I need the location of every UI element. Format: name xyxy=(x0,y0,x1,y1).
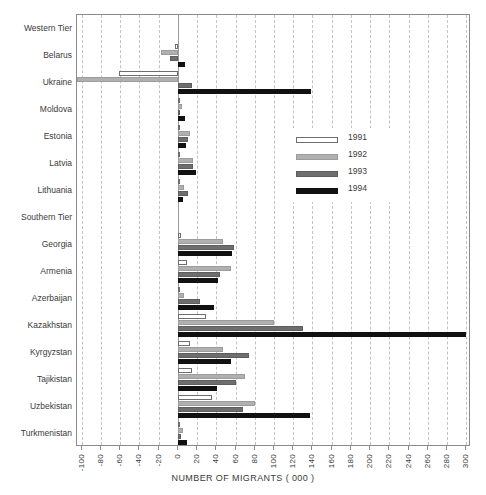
x-tick-label-240: 240 xyxy=(404,454,413,468)
category-label-kazakhstan: Kazakhstan xyxy=(28,320,72,330)
gridline-280 xyxy=(447,15,448,445)
bar-uzbekistan-1993 xyxy=(178,407,243,412)
gridline-300 xyxy=(466,15,467,445)
x-tick-label-140: 140 xyxy=(307,454,316,468)
category-label-azerbaijan: Azerbaijan xyxy=(32,293,72,303)
gridline-240 xyxy=(409,15,410,445)
x-tick-20 xyxy=(196,446,197,450)
bar-armenia-1991 xyxy=(178,260,187,265)
bar-moldova-1993 xyxy=(178,110,180,115)
legend-swatch-1992 xyxy=(296,154,338,160)
x-tick-120 xyxy=(292,446,293,450)
bar-azerbaijan-1994 xyxy=(178,305,215,310)
x-tick--100 xyxy=(81,446,82,450)
bar-moldova-1994 xyxy=(178,116,185,121)
gridline-80 xyxy=(255,15,256,445)
bar-tajikistan-1993 xyxy=(178,380,236,385)
bar-georgia-1994 xyxy=(178,251,232,256)
x-tick-label-280: 280 xyxy=(442,454,451,468)
bar-estonia-1993 xyxy=(178,137,189,142)
x-tick-label-120: 120 xyxy=(288,454,297,468)
legend-swatch-1994 xyxy=(296,188,338,194)
bar-latvia-1992 xyxy=(178,158,193,163)
x-tick-label-0: 0 xyxy=(173,454,182,459)
x-tick-180 xyxy=(350,446,351,450)
x-tick-240 xyxy=(408,446,409,450)
legend-item-1993: 1993 xyxy=(288,166,398,183)
x-tick-label-20: 20 xyxy=(192,454,201,464)
bar-latvia-1994 xyxy=(178,170,196,175)
legend-label-1992: 1992 xyxy=(348,149,367,159)
x-tick-220 xyxy=(388,446,389,450)
x-tick-100 xyxy=(273,446,274,450)
category-label-turkmenistan: Turkmenistan xyxy=(21,428,72,438)
gridline-180 xyxy=(351,15,352,445)
bar-moldova-1991 xyxy=(178,98,180,103)
gridline-140 xyxy=(312,15,313,445)
bar-ukraine-1994 xyxy=(178,89,311,94)
category-label-latvia: Latvia xyxy=(49,158,72,168)
category-label-lithuania: Lithuania xyxy=(37,185,72,195)
legend-label-1991: 1991 xyxy=(348,132,367,142)
x-axis-title: NUMBER OF MIGRANTS ( 000 ) xyxy=(0,473,486,483)
bar-azerbaijan-1991 xyxy=(178,287,180,292)
bar-armenia-1994 xyxy=(178,278,218,283)
x-tick-label-220: 220 xyxy=(384,454,393,468)
bar-estonia-1994 xyxy=(178,143,186,148)
bar-uzbekistan-1991 xyxy=(178,395,212,400)
x-tick--40 xyxy=(138,446,139,450)
x-tick-label--100: -100 xyxy=(77,454,86,471)
bar-kazakhstan-1993 xyxy=(178,326,303,331)
x-tick-40 xyxy=(215,446,216,450)
bar-tajikistan-1992 xyxy=(178,374,245,379)
bar-estonia-1992 xyxy=(178,131,190,136)
category-label-armenia: Armenia xyxy=(40,266,72,276)
bar-kazakhstan-1991 xyxy=(178,314,206,319)
bar-georgia-1993 xyxy=(178,245,234,250)
legend-item-1994: 1994 xyxy=(288,183,398,200)
x-tick-200 xyxy=(369,446,370,450)
legend-swatch-1993 xyxy=(296,171,338,177)
category-label-uzbekistan: Uzbekistan xyxy=(30,401,72,411)
category-label-estonia: Estonia xyxy=(44,131,72,141)
bar-georgia-1992 xyxy=(178,239,223,244)
x-tick-260 xyxy=(427,446,428,450)
x-tick-label-100: 100 xyxy=(269,454,278,468)
gridline-220 xyxy=(389,15,390,445)
x-tick-label-40: 40 xyxy=(211,454,220,464)
category-label-western-tier: Western Tier xyxy=(24,23,72,33)
legend-item-1991: 1991 xyxy=(288,132,398,149)
bar-belarus-1993 xyxy=(170,56,178,61)
bar-estonia-1991 xyxy=(178,125,180,130)
legend-swatch-1991 xyxy=(296,137,338,143)
legend: 1991199219931994 xyxy=(288,128,398,202)
bar-uzbekistan-1992 xyxy=(178,401,255,406)
x-tick-label-60: 60 xyxy=(231,454,240,464)
x-tick--20 xyxy=(158,446,159,450)
legend-label-1994: 1994 xyxy=(348,183,367,193)
category-label-tajikistan: Tajikistan xyxy=(37,374,72,384)
bar-lithuania-1992 xyxy=(178,185,184,190)
bar-ukraine-1993 xyxy=(178,83,192,88)
x-tick-label-300: 300 xyxy=(461,454,470,468)
bar-belarus-1991 xyxy=(175,44,178,49)
x-tick-label-200: 200 xyxy=(365,454,374,468)
legend-label-1993: 1993 xyxy=(348,166,367,176)
bar-uzbekistan-1994 xyxy=(178,413,310,418)
gridline-160 xyxy=(332,15,333,445)
x-tick--60 xyxy=(119,446,120,450)
bar-moldova-1992 xyxy=(178,104,182,109)
migration-bar-chart: -100-80-60-40-20020406080100120140160180… xyxy=(0,0,486,495)
bar-kazakhstan-1994 xyxy=(178,332,466,337)
x-tick--80 xyxy=(100,446,101,450)
x-tick-label-180: 180 xyxy=(346,454,355,468)
bar-lithuania-1993 xyxy=(178,191,189,196)
x-tick-label--40: -40 xyxy=(134,454,143,466)
bar-tajikistan-1994 xyxy=(178,386,217,391)
bar-latvia-1993 xyxy=(178,164,193,169)
bar-turkmenistan-1994 xyxy=(178,440,187,445)
category-label-moldova: Moldova xyxy=(40,104,72,114)
bar-armenia-1993 xyxy=(178,272,220,277)
gridline-260 xyxy=(428,15,429,445)
x-tick-label--60: -60 xyxy=(115,454,124,466)
